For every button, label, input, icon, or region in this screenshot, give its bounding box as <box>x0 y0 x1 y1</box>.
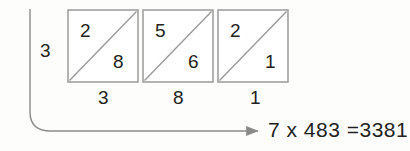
lattice-cell-1 <box>68 10 138 82</box>
lattice-cell-2 <box>143 10 213 82</box>
cell-2-lower-digit: 6 <box>188 52 199 71</box>
lattice-multiplication-diagram: 3 2 8 5 6 2 1 3 8 1 7 x 483 =3381 <box>0 0 410 151</box>
cell-1-lower-digit: 8 <box>113 52 124 71</box>
result-equation: 7 x 483 =3381 <box>268 119 408 140</box>
cell-3-lower-digit: 1 <box>265 52 276 71</box>
multiplier-label: 3 <box>40 41 51 60</box>
cell-1-upper-digit: 2 <box>80 21 91 40</box>
lattice-cell-3 <box>218 10 288 82</box>
bottom-label-1: 3 <box>98 88 109 107</box>
bottom-label-3: 1 <box>250 88 261 107</box>
cell-3-upper-digit: 2 <box>230 21 241 40</box>
bottom-label-2: 8 <box>173 88 184 107</box>
cell-2-upper-digit: 5 <box>155 21 166 40</box>
